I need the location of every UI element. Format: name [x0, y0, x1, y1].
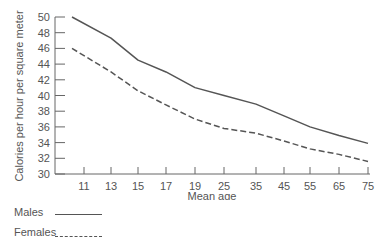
svg-text:17: 17: [160, 180, 172, 192]
svg-text:42: 42: [38, 74, 50, 86]
line-chart: 3032343638404244464850 11131517192535455…: [0, 0, 384, 248]
x-axis: 1113151719253545556575: [55, 167, 374, 192]
svg-text:30: 30: [38, 168, 50, 180]
legend-label-males: Males: [14, 206, 43, 218]
svg-text:40: 40: [38, 90, 50, 102]
svg-text:48: 48: [38, 27, 50, 39]
svg-text:55: 55: [304, 180, 316, 192]
svg-text:65: 65: [333, 180, 345, 192]
svg-text:32: 32: [38, 152, 50, 164]
series-females: [72, 48, 368, 161]
legend-swatch-solid: [55, 214, 102, 215]
svg-text:35: 35: [250, 180, 262, 192]
y-axis-label: Calories per hour per square meter: [13, 10, 25, 182]
svg-text:36: 36: [38, 121, 50, 133]
legend-swatch-dashed: [55, 236, 102, 237]
svg-text:44: 44: [38, 58, 50, 70]
svg-text:38: 38: [38, 105, 50, 117]
chart-plot-area: 3032343638404244464850 11131517192535455…: [0, 0, 384, 200]
svg-text:11: 11: [78, 180, 89, 192]
legend-label-females: Females: [14, 226, 56, 238]
svg-text:15: 15: [132, 180, 144, 192]
svg-text:13: 13: [105, 180, 117, 192]
svg-text:50: 50: [38, 11, 50, 23]
svg-text:34: 34: [38, 137, 50, 149]
series-males: [72, 17, 368, 143]
svg-text:45: 45: [278, 180, 290, 192]
svg-text:75: 75: [362, 180, 374, 192]
series-layer: [72, 17, 368, 161]
y-axis: 3032343638404244464850: [38, 11, 65, 180]
x-axis-label: Mean age: [188, 190, 237, 200]
svg-text:46: 46: [38, 42, 50, 54]
